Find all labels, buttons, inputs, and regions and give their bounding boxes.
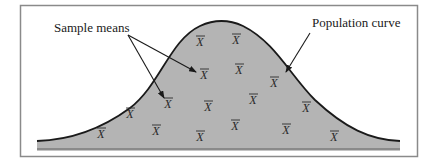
x-bar-symbol: X <box>248 93 257 107</box>
sample-mean-marker: X <box>125 107 135 121</box>
x-bar-symbol: X <box>230 119 239 133</box>
population-sampling-diagram: Sample means Population curve XXXXXXXXXX… <box>0 0 440 165</box>
x-bar-symbol: X <box>234 63 243 77</box>
sample-mean-marker: X <box>96 127 106 141</box>
sample-mean-marker: X <box>199 68 209 82</box>
x-bar-symbol: X <box>329 130 338 144</box>
sample-mean-marker: X <box>230 119 240 133</box>
sample-mean-marker: X <box>203 100 213 114</box>
sample-means-label: Sample means <box>54 20 129 35</box>
sample-mean-marker: X <box>281 123 291 137</box>
baseline <box>37 148 400 151</box>
x-bar-symbol: X <box>195 130 204 144</box>
sample-mean-marker: X <box>234 63 244 77</box>
sample-mean-marker: X <box>151 124 161 138</box>
x-bar-symbol: X <box>269 76 278 90</box>
x-bar-symbol: X <box>163 97 172 111</box>
x-bar-symbol: X <box>195 35 204 49</box>
x-bar-symbol: X <box>125 107 134 121</box>
x-bar-symbol: X <box>203 100 212 114</box>
sample-mean-marker: X <box>301 101 311 115</box>
population-curve-label: Population curve <box>312 15 401 30</box>
x-bar-symbol: X <box>281 123 290 137</box>
x-bar-symbol: X <box>301 101 310 115</box>
x-bar-symbol: X <box>151 124 160 138</box>
sample-mean-marker: X <box>248 93 258 107</box>
sample-mean-marker: X <box>329 130 339 144</box>
sample-mean-marker: X <box>195 130 205 144</box>
x-bar-symbol: X <box>231 33 240 47</box>
x-bar-symbol: X <box>96 127 105 141</box>
sample-mean-marker: X <box>195 35 205 49</box>
sample-mean-marker: X <box>163 97 173 111</box>
sample-mean-marker: X <box>269 76 279 90</box>
x-bar-symbol: X <box>199 68 208 82</box>
sample-mean-marker: X <box>231 33 241 47</box>
